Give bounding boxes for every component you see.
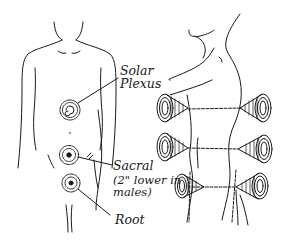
back-vortex-cone-middle bbox=[238, 135, 272, 163]
root-chakra-icon bbox=[62, 174, 80, 192]
back-vortex-cone-upper bbox=[240, 94, 271, 122]
sacral-label-line1: Sacral bbox=[113, 159, 153, 172]
solar-plexus-leader-line bbox=[78, 78, 118, 103]
navel-dot bbox=[69, 132, 71, 134]
sacral-note-line2: males) bbox=[113, 186, 181, 198]
diagram-drawing bbox=[0, 0, 288, 241]
root-leader-line bbox=[78, 189, 110, 215]
sacral-leader-tick bbox=[87, 153, 93, 159]
front-figure-outline bbox=[18, 22, 116, 232]
root-label: Root bbox=[115, 213, 145, 226]
back-vortex-cone-lower bbox=[236, 173, 268, 199]
root-label-line1: Root bbox=[115, 213, 145, 226]
solar-plexus-chakra-icon bbox=[60, 100, 80, 120]
sacral-label: Sacral bbox=[113, 159, 153, 172]
solar-plexus-label: Solar Plexus bbox=[120, 64, 161, 90]
sacral-chakra-icon bbox=[60, 146, 79, 165]
front-vortex-cone-middle bbox=[157, 133, 188, 161]
sacral-note: (2" lower in males) bbox=[113, 174, 181, 198]
sacral-leader-line bbox=[78, 157, 112, 165]
chakra-diagram: Solar Plexus Sacral (2" lower in males) … bbox=[0, 0, 288, 241]
solar-plexus-label-line2: Plexus bbox=[120, 77, 161, 90]
front-vortex-cone-upper bbox=[157, 94, 188, 122]
